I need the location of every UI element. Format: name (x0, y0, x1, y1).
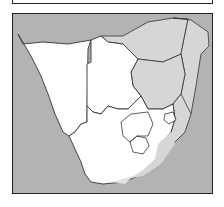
southern-africa-map (13, 14, 212, 193)
top-panel (12, 0, 213, 4)
map-frame (12, 13, 213, 194)
country-namibia (18, 34, 91, 136)
